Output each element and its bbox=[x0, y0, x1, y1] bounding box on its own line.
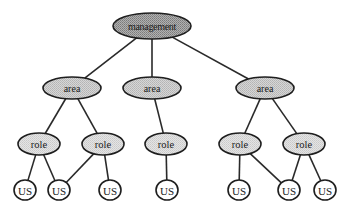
edge-role5-us7 bbox=[309, 155, 321, 181]
us-label: US bbox=[18, 185, 32, 197]
edge-role1-us2 bbox=[44, 155, 55, 181]
node-role5: role bbox=[283, 133, 325, 155]
node-role3: role bbox=[145, 133, 187, 155]
edge-role2-us3 bbox=[105, 155, 109, 180]
node-us5: US bbox=[228, 180, 250, 200]
role-label: role bbox=[95, 139, 112, 150]
node-us3: US bbox=[99, 180, 121, 200]
role-label: role bbox=[158, 139, 175, 150]
edges-layer bbox=[28, 37, 321, 183]
edge-management-area1 bbox=[85, 38, 137, 78]
edge-area3-role5 bbox=[272, 99, 296, 134]
area-label: area bbox=[257, 83, 274, 94]
node-area3: area bbox=[236, 77, 294, 99]
node-area2: area bbox=[123, 77, 181, 99]
node-us2: US bbox=[48, 180, 70, 200]
edge-role1-us1 bbox=[28, 155, 36, 180]
us-label: US bbox=[318, 185, 332, 197]
role-label: role bbox=[31, 139, 48, 150]
tree-canvas: managementareaareaarearolerolerolerolero… bbox=[0, 0, 347, 213]
management-label: management bbox=[128, 21, 177, 32]
node-role1: role bbox=[18, 133, 60, 155]
nodes-layer: managementareaareaarearolerolerolerolero… bbox=[14, 13, 336, 200]
edge-area3-role4 bbox=[245, 99, 260, 133]
edge-area1-role2 bbox=[78, 99, 97, 134]
role-label: role bbox=[296, 139, 313, 150]
node-us6: US bbox=[278, 180, 300, 200]
node-area1: area bbox=[43, 77, 101, 99]
node-us7: US bbox=[314, 180, 336, 200]
area-label: area bbox=[64, 83, 81, 94]
edge-role5-us6 bbox=[292, 155, 300, 181]
us-label: US bbox=[103, 185, 117, 197]
edge-role4-us5 bbox=[239, 155, 240, 180]
node-role4: role bbox=[219, 133, 261, 155]
edge-area1-role1 bbox=[45, 99, 65, 134]
role-label: role bbox=[232, 139, 249, 150]
edge-role2-us2 bbox=[66, 154, 93, 183]
node-management: management bbox=[113, 13, 191, 39]
node-us1: US bbox=[14, 180, 36, 200]
edge-role4-us6 bbox=[250, 154, 281, 183]
edge-role3-us4 bbox=[166, 155, 167, 180]
edge-area2-role3 bbox=[155, 99, 164, 133]
node-role2: role bbox=[82, 133, 124, 155]
hierarchy-diagram: managementareaareaarearolerolerolerolero… bbox=[0, 0, 347, 213]
edge-management-area3 bbox=[172, 37, 248, 79]
us-label: US bbox=[282, 185, 296, 197]
us-label: US bbox=[160, 185, 174, 197]
us-label: US bbox=[232, 185, 246, 197]
area-label: area bbox=[144, 83, 161, 94]
us-label: US bbox=[52, 185, 66, 197]
node-us4: US bbox=[156, 180, 178, 200]
